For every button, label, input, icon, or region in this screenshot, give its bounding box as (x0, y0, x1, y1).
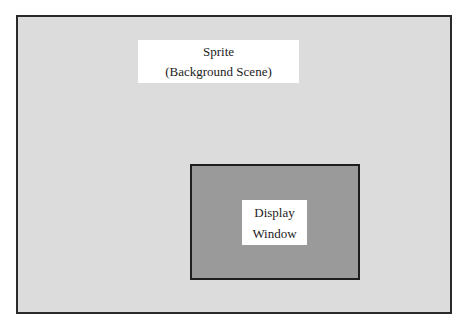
sprite-background-scene: Sprite (Background Scene) Display Window (16, 15, 452, 314)
display-label-line1: Display (242, 202, 307, 223)
sprite-label-title: Sprite (138, 42, 299, 62)
display-label-line2: Window (242, 223, 307, 244)
display-window-label: Display Window (242, 200, 307, 245)
sprite-label: Sprite (Background Scene) (138, 40, 299, 83)
display-window: Display Window (190, 164, 360, 280)
sprite-label-subtitle: (Background Scene) (138, 62, 299, 82)
